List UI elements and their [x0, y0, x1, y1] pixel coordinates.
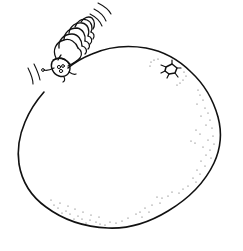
- caterpillar-head: [42, 55, 76, 82]
- stem-star-icon: [161, 60, 181, 78]
- illustration-svg: [0, 0, 243, 251]
- orange-icon: [18, 47, 220, 228]
- motion-lines-left: [28, 64, 40, 84]
- caterpillar-icon: [42, 17, 95, 82]
- illustration-canvas: Line drawing of a caterpillar crawling o…: [0, 0, 243, 251]
- stipple-shading: [50, 58, 214, 225]
- motion-lines-right: [90, 3, 111, 26]
